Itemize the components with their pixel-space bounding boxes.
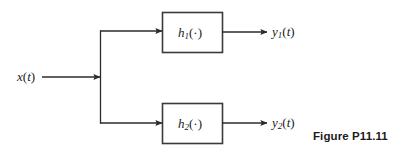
block-label-h1: h1(·) [178, 26, 202, 41]
output-label-y1: y1(t) [272, 25, 295, 40]
block-label-h2: h2(·) [178, 117, 202, 132]
figure-caption: Figure P11.11 [313, 131, 388, 143]
output-label-y2-close-paren: ) [290, 115, 294, 130]
input-label-close-paren: ) [31, 69, 35, 84]
output-label-y2: y2(t) [272, 116, 295, 131]
figure-container: x(t) h1(·) h2(·) y1(t) y2(t) Figure P11.… [0, 0, 400, 155]
block-label-h1-close-paren: ) [198, 25, 202, 40]
block-label-h2-close-paren: ) [198, 116, 202, 131]
input-label-x: x(t) [17, 70, 35, 83]
output-label-y1-close-paren: ) [290, 24, 294, 39]
